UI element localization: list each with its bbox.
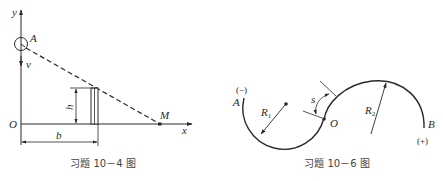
s-tick-top [320,81,336,96]
radius-r2-arrow [371,83,386,134]
x-axis-label: x [181,124,187,136]
arc-length-label: s [311,93,315,105]
negative-sign-label: (−) [236,85,247,95]
point-m-marker [158,123,162,126]
s-tick-bottom [303,111,322,118]
point-a-label-right: A [232,96,240,108]
y-axis-label: y [11,6,17,18]
point-b-label: B [428,118,435,130]
caption-10-4: 习题 10－4 图 [70,158,135,169]
figure-10-6: (−) A R1 O s R2 B (+) 习题 10－6 图 [232,81,435,169]
diagram-canvas: y x O A v M h b 习题 10－4 图 [0,0,443,181]
radius-r2-label: R2 [364,104,376,118]
point-a-radius [21,44,25,47]
velocity-label: v [26,58,31,70]
positive-sign-label: (+) [417,136,428,146]
point-a-label: A [29,32,37,44]
height-label: h [63,104,75,110]
distance-label: b [56,129,62,141]
arc-r2 [324,81,424,128]
caption-10-6: 习题 10－6 图 [304,158,369,169]
arc-r1 [243,98,324,149]
point-m-label: M [159,109,170,121]
radius-r1-label: R1 [260,106,272,120]
origin-label-right: O [330,117,338,129]
origin-dot [322,117,326,121]
origin-label: O [9,118,17,130]
figure-10-4: y x O A v M h b 习题 10－4 图 [9,6,192,169]
